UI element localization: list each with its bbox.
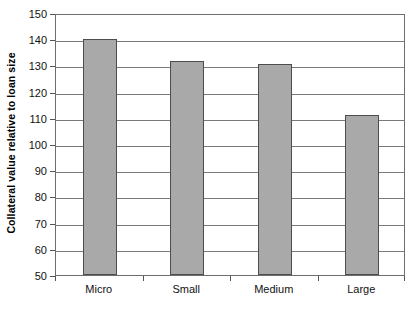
bar-small [170, 61, 204, 275]
y-axis-tick-label: 90 [35, 165, 47, 177]
y-axis-tick-label: 70 [35, 218, 47, 230]
y-axis-tick-label: 120 [29, 87, 47, 99]
y-axis-tick-label: 150 [29, 8, 47, 20]
bar-medium [258, 64, 292, 275]
y-axis-tick-label: 100 [29, 139, 47, 151]
y-axis-tick-label: 110 [29, 113, 47, 125]
bars-layer [56, 15, 404, 275]
y-axis-title: Collateral value relative to loan size [0, 0, 22, 285]
y-axis-tick-label: 80 [35, 191, 47, 203]
y-axis-tick-labels: 1501401301201101009080706050 [22, 14, 51, 276]
y-axis-tick-label: 140 [29, 34, 47, 46]
x-axis-tick-mark [404, 276, 405, 281]
x-axis-tick-label: Large [347, 283, 375, 295]
y-axis-tick-label: 130 [29, 60, 47, 72]
x-axis-tick-labels: MicroSmallMediumLarge [55, 283, 405, 301]
bar-micro [83, 39, 117, 275]
x-axis-tick-label: Micro [85, 283, 112, 295]
bar-large [345, 115, 379, 275]
x-axis-tick-mark [143, 276, 144, 281]
bar-chart-figure: Collateral value relative to loan size 1… [0, 0, 414, 310]
x-axis-tick-marks [55, 276, 405, 281]
x-axis-tick-mark [230, 276, 231, 281]
x-axis-tick-label: Medium [254, 283, 293, 295]
x-axis-tick-mark [318, 276, 319, 281]
plot-area [55, 14, 405, 276]
y-axis-tick-label: 50 [35, 270, 47, 282]
x-axis-tick-mark [55, 276, 56, 281]
y-axis-tick-label: 60 [35, 244, 47, 256]
y-axis-title-text: Collateral value relative to loan size [5, 52, 17, 233]
x-axis-tick-label: Small [172, 283, 200, 295]
